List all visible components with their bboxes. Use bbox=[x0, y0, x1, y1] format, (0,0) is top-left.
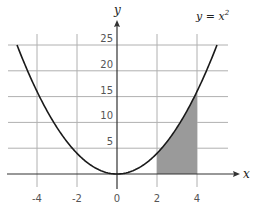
y-tick-label: 20 bbox=[100, 59, 113, 70]
x-tick-label: 4 bbox=[194, 193, 200, 204]
y-tick-label: 15 bbox=[100, 85, 113, 96]
x-tick-label: 2 bbox=[154, 193, 160, 204]
y-axis-label: y bbox=[113, 3, 121, 17]
x-tick-label: 0 bbox=[114, 193, 120, 204]
x-axis-arrow-icon bbox=[233, 171, 240, 177]
curve-equation-label: y = x2 bbox=[195, 9, 230, 23]
curve-equation-text: y = x bbox=[195, 10, 225, 23]
curve-equation-exponent: 2 bbox=[224, 9, 230, 17]
y-tick-label: 25 bbox=[100, 33, 113, 44]
chart: -4-2024510152025 x y y = x2 bbox=[0, 0, 254, 208]
y-axis-arrow-icon bbox=[114, 20, 120, 27]
x-tick-label: -4 bbox=[32, 193, 42, 204]
x-tick-label: -2 bbox=[72, 193, 82, 204]
y-tick-label: 10 bbox=[100, 110, 113, 121]
tick-labels: -4-2024510152025 bbox=[32, 33, 200, 204]
y-tick-label: 5 bbox=[107, 136, 113, 147]
x-axis-label: x bbox=[243, 167, 250, 181]
